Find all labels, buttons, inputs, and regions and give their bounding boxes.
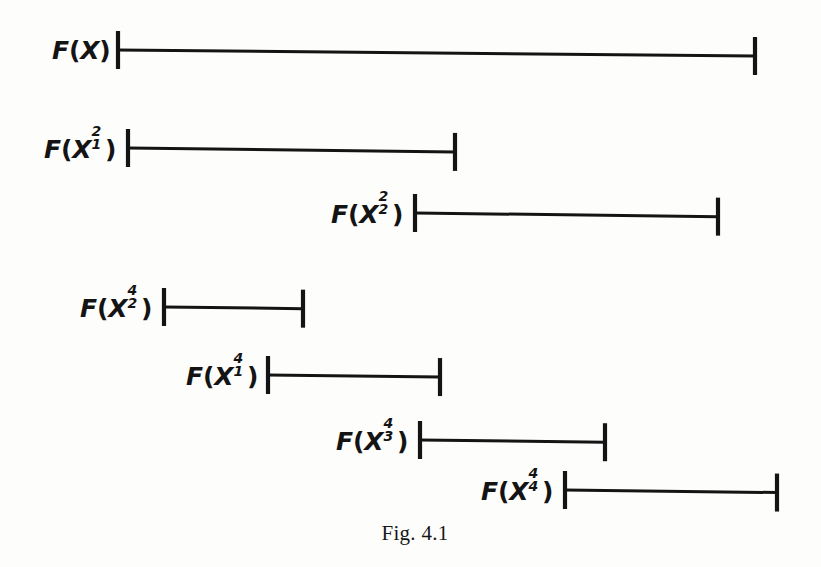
bracket-span-line [118, 50, 755, 56]
index-cluster: 42 [127, 292, 141, 317]
bracket-span-line [420, 440, 605, 442]
variable-symbol: X [359, 200, 378, 229]
interval-bracket [549, 455, 793, 525]
interval-label: F(X41) [186, 360, 258, 391]
interval-label: F(X44) [481, 475, 553, 506]
figure-caption: Fig. 4.1 [381, 521, 448, 546]
figure-canvas: F(X)F(X21)F(X22)F(X42)F(X41)F(X43)F(X44)… [0, 0, 821, 567]
close-paren: ) [105, 135, 116, 164]
variable-symbol: X [80, 36, 99, 65]
open-paren: ( [353, 427, 364, 456]
close-paren: ) [99, 36, 110, 65]
interval-bracket [148, 272, 319, 342]
index-cluster: 41 [233, 360, 247, 385]
close-paren: ) [247, 362, 258, 391]
bracket-span-line [268, 375, 440, 377]
open-paren: ( [348, 200, 359, 229]
open-paren: ( [97, 294, 108, 323]
interval-bracket [112, 113, 471, 183]
bracket-span-line [415, 213, 718, 217]
open-paren: ( [61, 135, 72, 164]
index-cluster: 44 [528, 475, 542, 500]
interval-label: F(X43) [336, 425, 408, 456]
function-symbol: F [481, 477, 498, 506]
function-symbol: F [52, 36, 69, 65]
variable-symbol: X [72, 135, 91, 164]
variable-symbol: X [108, 294, 127, 323]
subscript: 2 [127, 296, 137, 310]
variable-symbol: X [509, 477, 528, 506]
interval-label: F(X42) [80, 292, 152, 323]
close-paren: ) [542, 477, 553, 506]
interval-bracket [404, 405, 621, 475]
interval-bracket [399, 178, 734, 248]
variable-symbol: X [364, 427, 383, 456]
close-paren: ) [397, 427, 408, 456]
index-cluster: 21 [91, 133, 105, 158]
subscript: 3 [383, 429, 393, 443]
index-cluster: 22 [378, 198, 392, 223]
bracket-span-line [128, 148, 455, 152]
open-paren: ( [203, 362, 214, 391]
interval-bracket [252, 340, 456, 410]
function-symbol: F [331, 200, 348, 229]
subscript: 2 [378, 202, 388, 216]
subscript: 4 [528, 479, 538, 493]
interval-label: F(X21) [44, 133, 116, 164]
close-paren: ) [141, 294, 152, 323]
interval-label: F(X22) [331, 198, 403, 229]
variable-symbol: X [214, 362, 233, 391]
close-paren: ) [392, 200, 403, 229]
open-paren: ( [69, 36, 80, 65]
interval-bracket [102, 15, 771, 85]
function-symbol: F [80, 294, 97, 323]
subscript: 1 [233, 364, 243, 378]
open-paren: ( [498, 477, 509, 506]
function-symbol: F [44, 135, 61, 164]
function-symbol: F [336, 427, 353, 456]
function-symbol: F [186, 362, 203, 391]
subscript: 1 [91, 137, 101, 151]
interval-label: F(X) [52, 36, 110, 65]
bracket-span-line [164, 307, 303, 309]
index-cluster: 43 [383, 425, 397, 450]
bracket-span-line [565, 490, 777, 493]
